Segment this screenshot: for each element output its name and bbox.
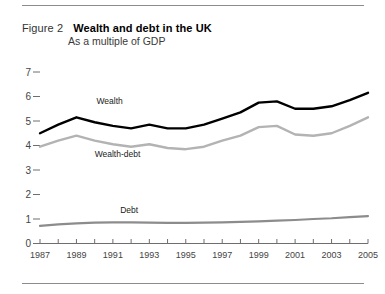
x-tick-label: 1987	[30, 250, 50, 260]
series-line-wealth-debt	[40, 117, 368, 149]
y-tick-label: 0	[25, 238, 31, 249]
x-tick-label: 1991	[103, 250, 123, 260]
y-tick-label: 7	[25, 67, 31, 78]
y-tick-label: 5	[25, 116, 31, 127]
x-tick-label: 1993	[139, 250, 159, 260]
y-tick-label: 4	[25, 140, 31, 151]
series-annotations: WealthWealth-debtDebt	[95, 96, 141, 215]
series-label-wealth-debt: Wealth-debt	[95, 149, 141, 159]
x-tick-label: 2005	[358, 250, 378, 260]
line-chart-svg: 01234567 1987198919911993199519971999200…	[0, 0, 385, 294]
y-tick-label: 1	[25, 214, 31, 225]
x-axis-ticks: 1987198919911993199519971999200120032005	[30, 239, 378, 260]
x-tick-label: 1989	[66, 250, 86, 260]
y-tick-label: 3	[25, 165, 31, 176]
x-tick-label: 1997	[212, 250, 232, 260]
series-label-wealth: Wealth	[96, 96, 123, 106]
x-tick-label: 1995	[176, 250, 196, 260]
data-series-group	[40, 93, 368, 226]
series-line-wealth	[40, 93, 368, 133]
x-tick-label: 2001	[285, 250, 305, 260]
x-tick-label: 1999	[249, 250, 269, 260]
x-tick-label: 2003	[322, 250, 342, 260]
y-tick-label: 6	[25, 91, 31, 102]
y-axis-ticks: 01234567	[25, 67, 40, 250]
series-label-debt: Debt	[120, 205, 139, 215]
bottom-divider	[22, 283, 364, 284]
chart-plot-area: 01234567 1987198919911993199519971999200…	[0, 0, 385, 294]
figure-container: Figure 2Wealth and debt in the UK As a m…	[0, 0, 385, 294]
series-line-debt	[40, 216, 368, 226]
y-tick-label: 2	[25, 189, 31, 200]
